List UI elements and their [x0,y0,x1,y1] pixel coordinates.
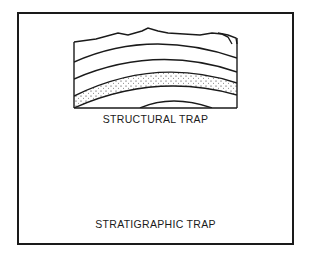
stratigraphic-trap-caption: STRATIGRAPHIC TRAP [0,218,311,230]
structural-trap-diagram [74,28,237,108]
structural-trap-caption: STRUCTURAL TRAP [0,113,311,125]
